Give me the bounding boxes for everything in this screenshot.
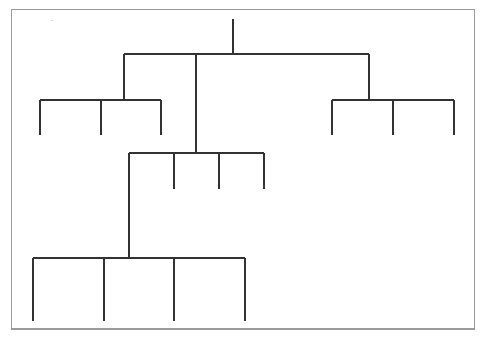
tree-diagram [0, 0, 485, 338]
